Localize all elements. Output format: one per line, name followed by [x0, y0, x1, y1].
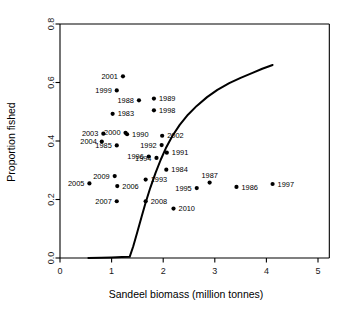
point-label-1989: 1989 — [159, 94, 175, 103]
point-label-1988: 1988 — [117, 96, 133, 105]
point-marker-1996 — [147, 154, 151, 158]
y-tick-label-0.2: 0.2 — [46, 193, 56, 206]
point-label-2007: 2007 — [95, 197, 111, 206]
point-label-1993: 1993 — [151, 175, 167, 184]
point-label-1987: 1987 — [201, 171, 217, 180]
point-label-1991: 1991 — [172, 148, 188, 157]
point-marker-1992 — [160, 143, 164, 147]
point-label-1996: 1996 — [127, 152, 143, 161]
x-tick-label-1: 1 — [109, 266, 114, 276]
x-tick-label-2: 2 — [161, 266, 166, 276]
point-marker-2010 — [171, 206, 175, 210]
point-label-1995: 1995 — [175, 184, 191, 193]
point-label-1997: 1997 — [278, 180, 294, 189]
point-marker-2000 — [123, 131, 127, 135]
point-marker-2001 — [121, 74, 125, 78]
point-marker-1988 — [137, 98, 141, 102]
point-label-2002: 2002 — [167, 131, 183, 140]
y-tick-label-0.0: 0.0 — [46, 252, 56, 265]
point-marker-2007 — [115, 199, 119, 203]
point-label-2008: 2008 — [151, 197, 167, 206]
y-tick-label-0.8: 0.8 — [46, 18, 56, 31]
x-axis-title: Sandeel biomass (million tonnes) — [109, 288, 264, 300]
point-marker-2006 — [115, 184, 119, 188]
point-marker-1998 — [152, 108, 156, 112]
point-marker-1989 — [152, 96, 156, 100]
point-label-1986: 1986 — [241, 183, 257, 192]
x-tick-label-4: 4 — [264, 266, 269, 276]
point-label-1999: 1999 — [95, 86, 111, 95]
point-label-2006: 2006 — [122, 182, 138, 191]
y-tick-label-0.4: 0.4 — [46, 135, 56, 148]
point-marker-1987 — [208, 180, 212, 184]
point-marker-2009 — [113, 174, 117, 178]
point-label-1984: 1984 — [171, 165, 187, 174]
point-label-2009: 2009 — [93, 172, 109, 181]
point-label-2004: 2004 — [80, 137, 96, 146]
point-marker-1994 — [154, 156, 158, 160]
point-marker-1997 — [270, 182, 274, 186]
point-marker-2008 — [144, 199, 148, 203]
point-marker-1993 — [144, 178, 148, 182]
point-marker-2005 — [87, 181, 91, 185]
x-tick-label-0: 0 — [57, 266, 62, 276]
point-label-2010: 2010 — [179, 204, 195, 213]
x-tick-label-5: 5 — [315, 266, 320, 276]
point-label-1990: 1990 — [132, 130, 148, 139]
point-marker-1984 — [164, 168, 168, 172]
point-marker-1995 — [195, 186, 199, 190]
point-label-2005: 2005 — [68, 179, 84, 188]
point-marker-2003 — [101, 132, 105, 136]
point-label-1992: 1992 — [140, 141, 156, 150]
scatter-plot-svg: 1983198419851986198719881989199019911992… — [0, 0, 345, 312]
point-marker-1991 — [165, 151, 169, 155]
y-tick-label-0.6: 0.6 — [46, 76, 56, 89]
point-marker-1999 — [115, 88, 119, 92]
y-axis-title: Proportion fished — [5, 102, 17, 182]
point-marker-1986 — [234, 185, 238, 189]
point-marker-2002 — [160, 134, 164, 138]
point-marker-1983 — [111, 112, 115, 116]
x-tick-label-3: 3 — [212, 266, 217, 276]
point-label-2001: 2001 — [101, 72, 117, 81]
point-label-1998: 1998 — [159, 106, 175, 115]
point-marker-2004 — [100, 139, 104, 143]
point-marker-1985 — [115, 143, 119, 147]
point-label-1983: 1983 — [118, 109, 134, 118]
chart-figure: 1983198419851986198719881989199019911992… — [0, 0, 345, 312]
point-label-2000: 2000 — [104, 128, 120, 137]
